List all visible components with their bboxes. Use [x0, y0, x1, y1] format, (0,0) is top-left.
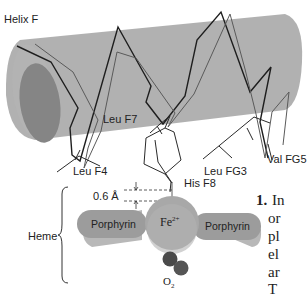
- leu-f4-label: Leu F4: [73, 166, 107, 177]
- porphyrin-right-label: Porphyrin: [205, 221, 250, 232]
- his-f8-label: His F8: [184, 178, 216, 189]
- leu-fg3-label: Leu FG3: [204, 166, 247, 177]
- side-text-line-6: T: [268, 282, 277, 297]
- oxygen-label: O2: [163, 276, 174, 290]
- side-text-line-3: pl: [268, 229, 280, 244]
- iron-symbol: Fe: [160, 215, 172, 229]
- iron-charge: 2+: [172, 215, 179, 223]
- side-text-line-4: el: [268, 247, 279, 262]
- oxygen-symbol: O: [163, 275, 171, 287]
- side-text-line-5: ar: [268, 265, 280, 280]
- iron-label: Fe2+: [160, 216, 179, 228]
- oxygen-subscript: 2: [171, 282, 175, 290]
- oxygen-molecule: [163, 252, 189, 276]
- helix-f-label: Helix F: [4, 14, 38, 25]
- heme-label: Heme: [28, 231, 57, 242]
- heme-bracket-icon: [58, 187, 68, 283]
- helix-f-cylinder: [6, 14, 302, 145]
- val-fg5-label: Val FG5: [267, 154, 307, 165]
- leu-f7-label: Leu F7: [103, 114, 137, 125]
- distance-label: 0.6 Å: [93, 191, 119, 202]
- side-text-line-2: or: [268, 211, 281, 226]
- side-text-line-1: In: [272, 193, 285, 208]
- porphyrin-left-label: Porphyrin: [91, 219, 136, 230]
- side-text-number: 1.: [256, 193, 267, 208]
